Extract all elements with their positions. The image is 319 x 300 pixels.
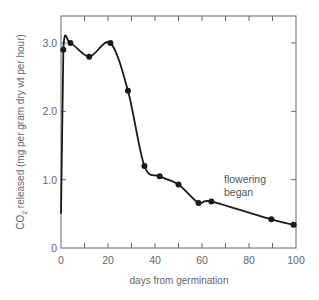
data-point-marker <box>195 200 201 206</box>
annotation-line2: began <box>224 186 253 198</box>
y-tick-labels: 01.02.03.0 <box>42 37 57 254</box>
y-axis-title-rest: released (mg per gram dry wt per hour) <box>15 34 26 211</box>
y-tick-label: 0 <box>51 242 57 254</box>
y-axis-title: CO2 released (mg per gram dry wt per hou… <box>15 34 28 230</box>
co2-release-chart: 020406080100 01.02.03.0 days from germin… <box>0 0 319 300</box>
y-axis-title-main: CO <box>15 215 26 230</box>
data-point-marker <box>141 163 147 169</box>
y-tick-label: 2.0 <box>42 105 57 117</box>
data-point-marker <box>176 181 182 187</box>
x-tick-label: 100 <box>287 254 305 266</box>
x-tick-label: 20 <box>102 254 114 266</box>
data-series <box>60 35 296 227</box>
data-point-marker <box>291 222 297 228</box>
data-point-marker <box>125 88 131 94</box>
co2-curve <box>61 35 294 224</box>
data-point-marker <box>67 40 73 46</box>
x-tick-label: 60 <box>196 254 208 266</box>
x-tick-label: 0 <box>58 254 64 266</box>
data-point-marker <box>208 199 214 205</box>
data-point-marker <box>60 47 66 53</box>
annotation-line1: flowering <box>224 173 266 185</box>
y-tick-label: 3.0 <box>42 37 57 49</box>
y-tick-label: 1.0 <box>42 174 57 186</box>
data-point-marker <box>86 54 92 60</box>
data-point-marker <box>268 216 274 222</box>
x-tick-label: 80 <box>243 254 255 266</box>
data-point-marker <box>107 40 113 46</box>
x-tick-labels: 020406080100 <box>58 254 305 266</box>
annotation-flowering: flowering began <box>224 173 269 198</box>
x-axis-title: days from germination <box>130 275 229 286</box>
data-point-marker <box>157 173 163 179</box>
x-tick-label: 40 <box>149 254 161 266</box>
